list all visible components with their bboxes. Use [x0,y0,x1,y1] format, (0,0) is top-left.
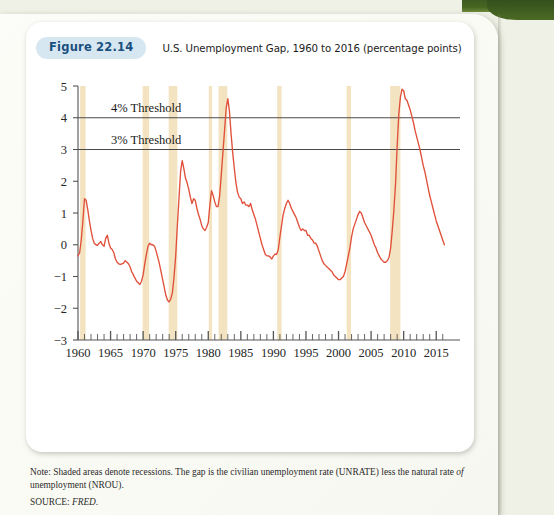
y-tick-label: 1 [61,207,67,221]
recession-band [219,86,228,340]
x-tick-label: 2015 [424,346,449,360]
y-tick-label: 3 [61,143,67,157]
recession-band [143,86,150,340]
x-tick-label: 1965 [98,346,123,360]
x-tick-label: 1995 [293,346,318,360]
chart-plot-area: −3−2−1012345 196019651970197519801985199… [26,22,474,452]
y-tick-label: −1 [54,270,67,284]
x-tick-label: 1990 [261,346,286,360]
recession-band [277,86,281,340]
threshold-label: 4% Threshold [111,101,182,115]
textbook-page: Figure 22.14 U.S. Unemployment Gap, 1960… [0,14,498,515]
note-italic-word: of [456,467,463,477]
y-axis-tick-labels: −3−2−1012345 [54,80,68,348]
y-tick-label: 5 [61,80,67,94]
series-line [78,89,444,302]
threshold-label: 3% Threshold [111,133,182,147]
source-label: SOURCE: [30,497,72,507]
note-suffix: unemployment (NROU). [30,480,124,490]
y-tick-label: 0 [61,238,67,252]
unemployment-gap-line-chart: −3−2−1012345 196019651970197519801985199… [26,22,474,452]
recession-band [347,86,351,340]
axes-group [73,86,460,340]
x-tick-label: 2010 [391,346,416,360]
source-value: FRED. [72,497,98,507]
page-right-shadow [498,14,502,515]
x-tick-label: 2000 [326,346,351,360]
figure-notes: Note: Shaded areas denote recessions. Th… [30,466,470,509]
note-line: Note: Shaded areas denote recessions. Th… [30,466,470,493]
x-axis-tick-labels: 1960196519701975198019851990199520002005… [66,346,449,360]
x-tick-label: 1980 [196,346,221,360]
x-tick-label: 2005 [359,346,384,360]
data-series-group [78,89,444,302]
recession-band [169,86,178,340]
y-tick-label: 4 [61,111,68,125]
x-tick-label: 1975 [163,346,188,360]
figure-card: Figure 22.14 U.S. Unemployment Gap, 1960… [26,22,474,452]
recession-bands-group [80,86,400,340]
note-prefix: Note: Shaded areas denote recessions. Th… [30,467,456,477]
x-tick-label: 1970 [131,346,156,360]
x-tick-label: 1985 [228,346,253,360]
x-tick-label: 1960 [66,346,91,360]
page-background: Figure 22.14 U.S. Unemployment Gap, 1960… [0,0,554,515]
source-line: SOURCE: FRED. [30,496,470,509]
y-tick-label: 2 [61,175,67,189]
y-tick-label: −2 [54,302,67,316]
